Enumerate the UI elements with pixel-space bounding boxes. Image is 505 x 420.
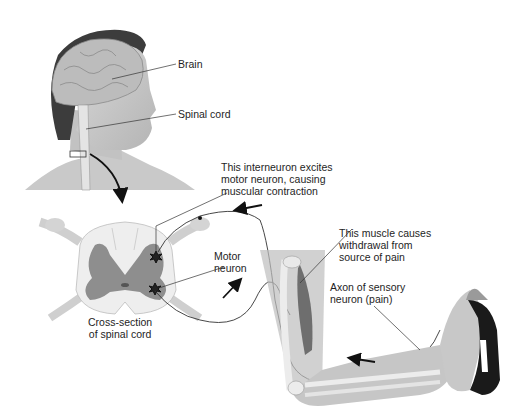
label-line: source of pain xyxy=(339,251,431,263)
label-line: This muscle causes xyxy=(339,227,431,239)
arm-illustration xyxy=(260,250,485,406)
reflex-arc-diagram: Brain Spinal cord This interneuron excit… xyxy=(0,0,505,420)
label-interneuron: This interneuron excites motor neuron, c… xyxy=(221,161,332,197)
label-line: muscular contraction xyxy=(221,185,332,197)
arrow-motor-top xyxy=(236,205,262,210)
label-cross-section: Cross-section of spinal cord xyxy=(88,316,152,340)
label-line: Cross-section xyxy=(88,316,152,328)
spinal-cord-cross-section xyxy=(40,216,210,318)
arrow-motor-up xyxy=(223,280,240,298)
label-line: Axon of sensory xyxy=(330,281,405,293)
label-line: Motor xyxy=(214,250,247,262)
label-spinal-cord: Spinal cord xyxy=(178,108,231,120)
label-line: neuron (pain) xyxy=(330,293,405,305)
label-line: This interneuron excites xyxy=(221,161,332,173)
label-sensory-axon: Axon of sensory neuron (pain) xyxy=(330,281,405,305)
label-muscle: This muscle causes withdrawal from sourc… xyxy=(339,227,431,263)
label-line: neuron xyxy=(214,262,247,274)
label-line: withdrawal from xyxy=(339,239,431,251)
label-motor-neuron: Motor neuron xyxy=(214,250,247,274)
label-line: motor neuron, causing xyxy=(221,173,332,185)
label-brain: Brain xyxy=(178,58,203,70)
head-illustration xyxy=(25,30,195,190)
diagram-artwork xyxy=(0,0,505,420)
label-line: of spinal cord xyxy=(88,328,152,340)
